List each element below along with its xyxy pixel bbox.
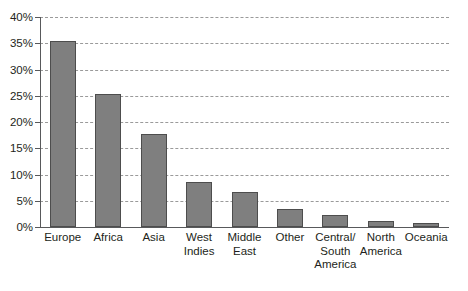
bar-africa[interactable] bbox=[95, 94, 121, 227]
bar-middle-east[interactable] bbox=[232, 192, 258, 227]
gridline bbox=[40, 70, 449, 71]
x-tick-label: Central/SouthAmerica bbox=[313, 231, 358, 272]
gridline bbox=[40, 17, 449, 18]
x-tick-label: Oceania bbox=[404, 231, 449, 245]
x-tick-label: Europe bbox=[40, 231, 85, 245]
y-tick-label: 25% bbox=[0, 90, 33, 102]
x-axis-labels: EuropeAfricaAsiaWestIndiesMiddleEastOthe… bbox=[40, 231, 449, 289]
x-axis-line bbox=[40, 227, 449, 228]
y-axis-line bbox=[40, 17, 41, 228]
y-tick-label: 35% bbox=[0, 37, 33, 49]
y-tick-label: 10% bbox=[0, 169, 33, 181]
bar-west-indies[interactable] bbox=[186, 182, 212, 227]
gridline bbox=[40, 43, 449, 44]
bar-asia[interactable] bbox=[141, 134, 167, 227]
x-tick-label: Africa bbox=[85, 231, 130, 245]
bar-central-south-america[interactable] bbox=[322, 215, 348, 227]
bar-chart: 0%5%10%15%20%25%30%35%40% EuropeAfricaAs… bbox=[0, 0, 468, 291]
x-tick-label: WestIndies bbox=[176, 231, 221, 258]
x-tick-label: Other bbox=[267, 231, 312, 245]
plot-area bbox=[40, 17, 449, 227]
y-tick-label: 30% bbox=[0, 64, 33, 76]
bar-europe[interactable] bbox=[50, 41, 76, 227]
x-tick-label: MiddleEast bbox=[222, 231, 267, 258]
y-tick-label: 15% bbox=[0, 142, 33, 154]
y-tick-label: 40% bbox=[0, 11, 33, 23]
y-tick-label: 0% bbox=[0, 221, 33, 233]
y-tick-label: 5% bbox=[0, 195, 33, 207]
bar-other[interactable] bbox=[277, 209, 303, 227]
x-tick-label: Asia bbox=[131, 231, 176, 245]
x-tick-label: NorthAmerica bbox=[358, 231, 403, 258]
y-tick-label: 20% bbox=[0, 116, 33, 128]
